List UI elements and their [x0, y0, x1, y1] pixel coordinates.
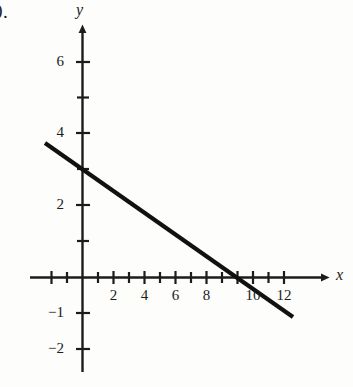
x-tick-label-2: 2 — [105, 288, 122, 303]
y-tick-label-6: 6 — [44, 54, 64, 69]
y-tick-label-neg1: −1 — [34, 305, 64, 320]
x-tick-label-6: 6 — [167, 288, 184, 303]
x-tick-label-10: 10 — [241, 288, 265, 303]
y-axis-label: y — [76, 2, 83, 18]
x-tick-label-8: 8 — [198, 288, 215, 303]
x-tick-label-4: 4 — [136, 288, 153, 303]
x-tick-label-12: 12 — [272, 288, 296, 303]
y-tick-label-neg2: −2 — [34, 341, 64, 356]
graph-figure: 0. — [0, 0, 353, 387]
y-tick-label-4: 4 — [44, 125, 64, 140]
y-tick-label-2: 2 — [44, 197, 64, 212]
x-axis-label: x — [336, 267, 343, 283]
